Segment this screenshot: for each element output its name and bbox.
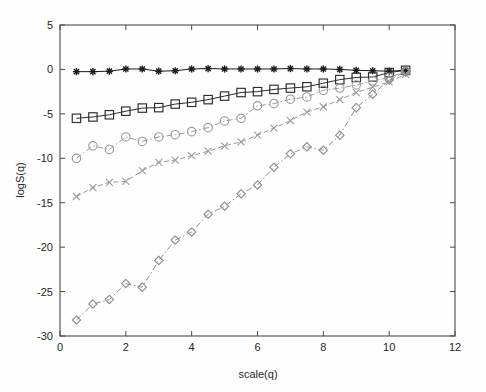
data-point-marker xyxy=(122,65,129,72)
data-point-marker xyxy=(89,68,96,75)
y-tick-label: 5 xyxy=(47,19,53,31)
x-tick-label: 12 xyxy=(449,341,461,353)
data-point-marker xyxy=(336,66,343,73)
x-tick-label: 2 xyxy=(123,341,129,353)
data-point-marker xyxy=(287,65,294,72)
y-tick-label: -30 xyxy=(37,330,53,342)
data-point-marker xyxy=(155,68,162,75)
y-tick-label: -25 xyxy=(37,286,53,298)
data-point-marker xyxy=(237,65,244,72)
x-tick-label: 4 xyxy=(189,341,195,353)
x-tick-label: 8 xyxy=(320,341,326,353)
data-point-marker xyxy=(303,65,310,72)
x-tick-label: 0 xyxy=(57,341,63,353)
data-point-marker xyxy=(172,67,179,74)
y-tick-label: 0 xyxy=(47,63,53,75)
figure-canvas: 024681012 50-5-10-15-20-25-30 scale(q) l… xyxy=(0,0,486,392)
data-point-marker xyxy=(254,65,261,72)
data-point-marker xyxy=(139,65,146,72)
data-point-marker xyxy=(73,68,80,75)
x-tick-label: 6 xyxy=(254,341,260,353)
y-tick-label: -20 xyxy=(37,241,53,253)
data-point-marker xyxy=(221,65,228,72)
data-point-marker xyxy=(320,65,327,72)
data-point-marker xyxy=(106,68,113,75)
data-point-marker xyxy=(205,65,212,72)
chart-plot: 024681012 50-5-10-15-20-25-30 scale(q) l… xyxy=(0,0,486,392)
y-axis-label: logS(q) xyxy=(14,162,26,197)
data-point-marker xyxy=(188,65,195,72)
y-tick-label: -10 xyxy=(37,152,53,164)
y-tick-label: -15 xyxy=(37,197,53,209)
y-tick-label: -5 xyxy=(43,108,53,120)
data-point-marker xyxy=(270,65,277,72)
x-tick-label: 10 xyxy=(383,341,395,353)
x-axis-label: scale(q) xyxy=(238,368,277,380)
